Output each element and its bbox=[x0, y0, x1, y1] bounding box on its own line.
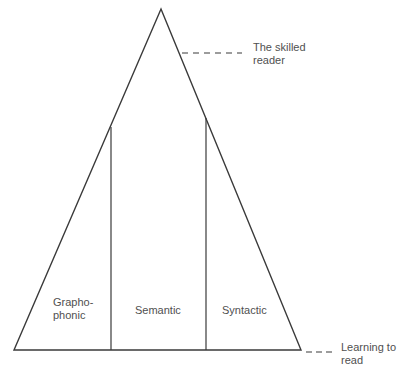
segment-graphophonic-line1: Grapho- bbox=[53, 296, 93, 309]
segment-graphophonic-label: Grapho- phonic bbox=[53, 296, 93, 322]
annotation-learning-to-read: Learning to read bbox=[341, 341, 396, 367]
segment-syntactic-label: Syntactic bbox=[222, 304, 267, 317]
annotation-learning-to-read-line1: Learning to bbox=[341, 341, 396, 354]
annotation-skilled-reader: The skilled reader bbox=[253, 41, 306, 67]
annotation-skilled-reader-line2: reader bbox=[253, 54, 306, 67]
annotation-skilled-reader-line1: The skilled bbox=[253, 41, 306, 54]
annotation-learning-to-read-line2: read bbox=[341, 354, 396, 367]
segment-semantic-label: Semantic bbox=[135, 304, 181, 317]
segment-graphophonic-line2: phonic bbox=[53, 309, 93, 322]
